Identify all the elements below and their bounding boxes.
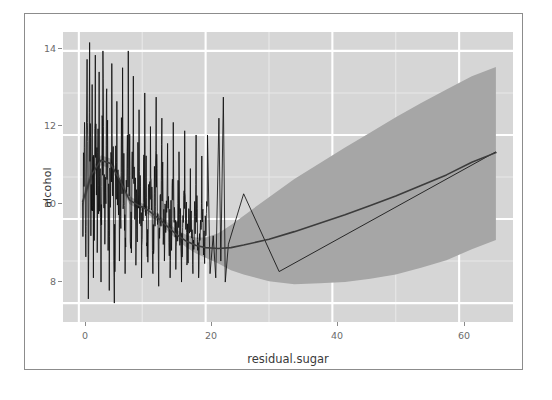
y-tick-mark-14	[58, 48, 62, 49]
x-tick-mark-40	[337, 322, 338, 326]
y-tick-mark-8	[58, 281, 62, 282]
plot-canvas	[63, 32, 513, 322]
x-tick-mark-0	[85, 322, 86, 326]
x-tick-label-0: 0	[70, 330, 100, 341]
x-tick-label-40: 40	[322, 330, 352, 341]
y-axis-title: alcohol	[38, 152, 56, 222]
plot-panel	[63, 32, 513, 322]
y-tick-label-12: 12	[28, 120, 56, 131]
y-tick-label-14: 14	[28, 43, 56, 54]
x-tick-label-60: 60	[449, 330, 479, 341]
y-axis-title-text: alcohol	[41, 167, 54, 208]
figure-container: 14 12 10 8 0 20 40 60 alcohol residual.s…	[0, 0, 552, 400]
y-tick-label-8: 8	[28, 276, 56, 287]
y-tick-mark-12	[58, 125, 62, 126]
x-tick-mark-60	[464, 322, 465, 326]
x-tick-mark-20	[211, 322, 212, 326]
x-tick-label-20: 20	[196, 330, 226, 341]
y-tick-mark-10	[58, 203, 62, 204]
x-axis-title: residual.sugar	[63, 352, 513, 366]
